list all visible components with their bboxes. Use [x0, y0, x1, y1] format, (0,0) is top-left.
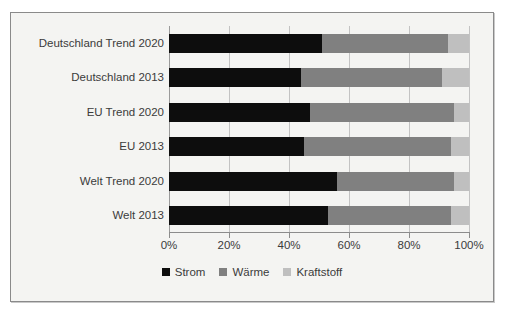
legend-item[interactable]: Kraftstoff — [283, 266, 342, 278]
bar-row[interactable] — [169, 68, 469, 87]
chart-frame: Deutschland Trend 2020Deutschland 2013EU… — [10, 12, 494, 302]
category-label: Welt 2013 — [4, 206, 164, 225]
x-tick-label: 40% — [259, 239, 319, 251]
bar-segment-kraftstoff[interactable] — [448, 34, 469, 53]
bar-segment-waerme[interactable] — [304, 137, 451, 156]
bar-segment-strom[interactable] — [169, 68, 301, 87]
x-tick — [469, 233, 470, 238]
x-tick — [349, 233, 350, 238]
bar-segment-kraftstoff[interactable] — [451, 206, 469, 225]
x-tick — [289, 233, 290, 238]
x-tick-label: 60% — [319, 239, 379, 251]
bar-segment-kraftstoff[interactable] — [454, 103, 469, 122]
bar-segment-waerme[interactable] — [322, 34, 448, 53]
x-axis: 0%20%40%60%80%100% — [169, 233, 469, 259]
bar-segment-kraftstoff[interactable] — [451, 137, 469, 156]
category-label: EU 2013 — [4, 137, 164, 156]
plot-area — [169, 26, 469, 233]
gridline-40% — [289, 26, 290, 233]
legend-item[interactable]: Wärme — [219, 266, 269, 278]
legend-swatch-icon — [283, 268, 291, 276]
gridline-100% — [469, 26, 470, 233]
x-tick-label: 100% — [439, 239, 499, 251]
chart-legend: StromWärmeKraftstoff — [11, 266, 493, 278]
bar-row[interactable] — [169, 172, 469, 191]
x-tick-label: 80% — [379, 239, 439, 251]
gridline-80% — [409, 26, 410, 233]
bar-segment-waerme[interactable] — [301, 68, 442, 87]
legend-item[interactable]: Strom — [162, 266, 206, 278]
legend-swatch-icon — [162, 268, 170, 276]
bar-segment-kraftstoff[interactable] — [454, 172, 469, 191]
bar-row[interactable] — [169, 34, 469, 53]
category-label: Deutschland 2013 — [4, 68, 164, 87]
legend-label: Strom — [175, 266, 206, 278]
gridline-0% — [169, 26, 170, 233]
category-label: Deutschland Trend 2020 — [4, 34, 164, 53]
x-tick-label: 20% — [199, 239, 259, 251]
x-tick — [409, 233, 410, 238]
gridline-20% — [229, 26, 230, 233]
bar-segment-strom[interactable] — [169, 103, 310, 122]
bar-segment-strom[interactable] — [169, 206, 328, 225]
bar-row[interactable] — [169, 137, 469, 156]
bar-segment-waerme[interactable] — [337, 172, 454, 191]
bar-row[interactable] — [169, 206, 469, 225]
category-axis: Deutschland Trend 2020Deutschland 2013EU… — [11, 26, 164, 233]
legend-label: Wärme — [232, 266, 269, 278]
x-tick — [229, 233, 230, 238]
bar-segment-strom[interactable] — [169, 34, 322, 53]
legend-swatch-icon — [219, 268, 227, 276]
x-tick-label: 0% — [139, 239, 199, 251]
gridline-60% — [349, 26, 350, 233]
bar-segment-waerme[interactable] — [310, 103, 454, 122]
legend-label: Kraftstoff — [296, 266, 342, 278]
category-label: Welt Trend 2020 — [4, 172, 164, 191]
bar-segment-strom[interactable] — [169, 172, 337, 191]
x-tick — [169, 233, 170, 238]
bar-segment-kraftstoff[interactable] — [442, 68, 469, 87]
bar-segment-strom[interactable] — [169, 137, 304, 156]
bar-segment-waerme[interactable] — [328, 206, 451, 225]
bar-row[interactable] — [169, 103, 469, 122]
category-label: EU Trend 2020 — [4, 103, 164, 122]
